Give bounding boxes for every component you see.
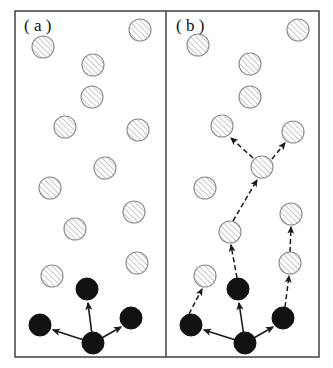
a-filled-top: [76, 278, 98, 300]
b-filled-left: [180, 314, 202, 336]
a-filled-left: [29, 314, 51, 336]
a-hatched-3: [82, 54, 104, 76]
a-hatched-1: [32, 36, 54, 58]
b-filled-top: [227, 278, 249, 300]
b-hatched-2: [287, 19, 309, 41]
a-hatched-10: [64, 218, 86, 240]
b-hatched-3: [239, 53, 261, 75]
a-filled-right: [120, 307, 142, 329]
b-filled-right: [272, 307, 294, 329]
diagram-canvas: ( a )( b ): [0, 0, 333, 368]
b-arrow-hatched9-to-hatched8: [290, 227, 291, 252]
a-hatched-4: [81, 86, 103, 108]
b-hatched-6: [282, 121, 304, 143]
figure-container: ( a )( b ): [0, 0, 333, 368]
b-arrow-midnode-to-uppernode: [233, 180, 257, 221]
b-hatched-9: [279, 252, 301, 274]
b-hatched-1: [187, 34, 209, 56]
b-hatched-10: [194, 265, 216, 287]
a-hatched-5: [54, 116, 76, 138]
panel-label-b: ( b ): [176, 16, 204, 35]
b-hatched-node-mid: [219, 221, 241, 243]
b-hatched-4: [239, 86, 261, 108]
a-hatched-2: [129, 19, 151, 41]
b-hatched-node-upper: [251, 156, 273, 178]
a-hatched-12: [41, 265, 63, 287]
panel-label-a: ( a ): [24, 16, 51, 35]
b-arrow-uppernode-to-hatched5: [231, 138, 253, 158]
a-filled-center: [82, 332, 104, 354]
a-hatched-8: [39, 177, 61, 199]
a-hatched-7: [94, 157, 116, 179]
b-arrow-top-to-midnode: [231, 245, 237, 278]
a-hatched-11: [126, 252, 148, 274]
b-filled-center: [234, 332, 256, 354]
b-arrow-uppernode-to-hatched6: [272, 143, 285, 159]
b-arrow-right-to-hatched9: [285, 276, 289, 307]
b-hatched-7: [194, 177, 216, 199]
b-hatched-5: [211, 115, 233, 137]
a-hatched-6: [127, 119, 149, 141]
a-hatched-9: [123, 201, 145, 223]
b-arrow-left-to-hatched10: [189, 289, 202, 314]
b-hatched-8: [280, 203, 302, 225]
